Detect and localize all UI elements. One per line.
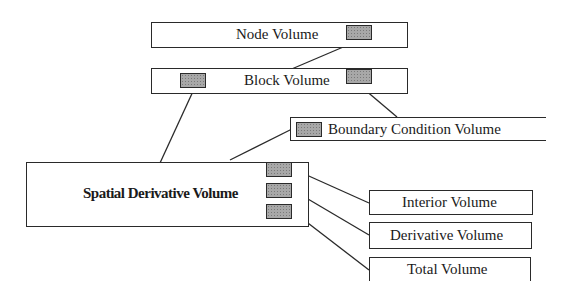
node-volume-box: Node Volume — [151, 22, 408, 48]
spatial-pointer-interior — [266, 162, 292, 177]
block-volume-box: Block Volume — [151, 68, 408, 94]
derivative-volume-label: Derivative Volume — [390, 227, 503, 244]
interior-volume-box: Interior Volume — [369, 190, 533, 215]
edge-block-to-spatial — [160, 87, 195, 163]
block-volume-left-pointer — [180, 73, 206, 88]
interior-volume-label: Interior Volume — [402, 194, 497, 211]
spatial-pointer-derivative — [266, 183, 292, 198]
block-volume-right-pointer — [346, 69, 372, 84]
node-volume-label: Node Volume — [236, 26, 318, 43]
boundary-condition-volume-box: Boundary Condition Volume — [290, 117, 546, 141]
spatial-pointer-total — [266, 204, 292, 219]
edge-boundary-to-spatial — [230, 129, 292, 160]
total-volume-label: Total Volume — [407, 261, 487, 278]
derivative-volume-box: Derivative Volume — [369, 222, 532, 249]
block-volume-label: Block Volume — [244, 72, 330, 89]
boundary-condition-volume-label: Boundary Condition Volume — [328, 121, 501, 138]
total-volume-box: Total Volume — [369, 257, 531, 281]
spatial-derivative-volume-box: Spatial Derivative Volume — [26, 162, 309, 227]
spatial-derivative-volume-label: Spatial Derivative Volume — [83, 185, 238, 202]
node-volume-pointer — [346, 25, 372, 40]
boundary-condition-volume-pointer — [296, 122, 322, 137]
